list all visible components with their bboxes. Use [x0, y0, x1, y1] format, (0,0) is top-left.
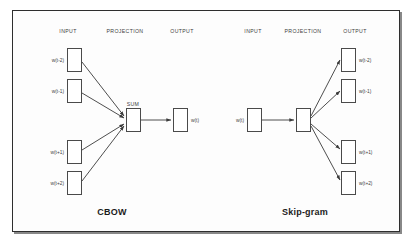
- cbow-input-w-t-minus-2-label: w(t-2): [52, 58, 64, 63]
- cbow-input-w-t-minus-1: [67, 79, 82, 103]
- arrow-skipgram-proj-to-t-plus-2: [311, 126, 340, 180]
- skipgram-output-w-t-minus-2-label: w(t-2): [359, 58, 371, 63]
- skipgram-output-w-t-plus-1-label: w(t+1): [359, 150, 372, 155]
- cbow-output-w-t-label: w(t): [191, 118, 199, 123]
- skipgram-output-w-t-minus-2: [341, 48, 356, 72]
- arrow-skipgram-proj-to-t-minus-1: [311, 91, 340, 118]
- cbow-input-w-t-plus-2-label: w(t+2): [51, 181, 64, 186]
- arrow-layer: [0, 0, 413, 250]
- arrow-cbow-in-t-plus-1-to-sum: [82, 124, 124, 150]
- cbow-sum-label: SUM: [127, 101, 139, 107]
- column-header-input-3: INPUT: [244, 28, 261, 34]
- cbow-title: CBOW: [97, 207, 126, 217]
- cbow-input-w-t-plus-2: [67, 171, 82, 195]
- cbow-projection-sum: [126, 108, 141, 132]
- arrow-skipgram-proj-to-t-plus-1: [311, 124, 340, 149]
- column-header-input-0: INPUT: [59, 28, 76, 34]
- column-header-output-2: OUTPUT: [170, 28, 193, 34]
- cbow-input-w-t-plus-1: [67, 140, 82, 164]
- skipgram-output-w-t-plus-2-label: w(t+2): [359, 181, 372, 186]
- arrow-skipgram-proj-to-t-minus-2: [311, 60, 340, 116]
- cbow-input-w-t-minus-2: [67, 48, 82, 72]
- arrow-cbow-in-t-minus-1-to-sum: [82, 93, 124, 118]
- column-header-output-5: OUTPUT: [343, 28, 366, 34]
- arrow-cbow-in-t-plus-2-to-sum: [82, 126, 124, 181]
- arrow-cbow-in-t-minus-2-to-sum: [82, 62, 124, 116]
- cbow-output-w-t: [173, 108, 188, 132]
- word2vec-architecture-figure: INPUTPROJECTIONOUTPUTINPUTPROJECTIONOUTP…: [0, 0, 413, 250]
- skipgram-input-w-t-label: w(t): [236, 118, 244, 123]
- skipgram-output-w-t-minus-1-label: w(t-1): [359, 89, 371, 94]
- skipgram-input-w-t: [247, 108, 262, 132]
- cbow-input-w-t-minus-1-label: w(t-1): [52, 89, 64, 94]
- skipgram-output-w-t-minus-1: [341, 79, 356, 103]
- skipgram-projection: [296, 108, 311, 132]
- column-header-projection-1: PROJECTION: [107, 28, 144, 34]
- skipgram-output-w-t-plus-1: [341, 140, 356, 164]
- cbow-input-w-t-plus-1-label: w(t+1): [51, 150, 64, 155]
- skipgram-output-w-t-plus-2: [341, 171, 356, 195]
- skipgram-title: Skip-gram: [282, 207, 328, 217]
- column-header-projection-4: PROJECTION: [285, 28, 322, 34]
